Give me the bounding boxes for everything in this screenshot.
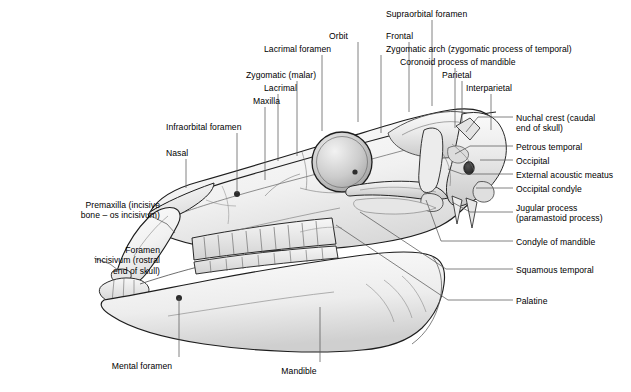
label-condyle-of-mandible: Condyle of mandible <box>516 237 595 247</box>
label-mandible: Mandible <box>259 366 339 376</box>
label-nasal: Nasal <box>166 148 188 158</box>
label-parietal: Parietal <box>442 70 472 80</box>
label-occipital-condyle: Occipital condyle <box>516 184 582 194</box>
label-zygomatic-malar: Zygomatic (malar) <box>246 70 316 80</box>
anatomical-figure: Supraorbital foramenOrbitFrontalZygomati… <box>0 0 631 392</box>
paramastoid-process <box>466 198 477 228</box>
label-lacrimal: Lacrimal <box>264 83 297 93</box>
skull-body <box>99 109 506 352</box>
label-foramen-incisivum: Foramen incisivum (rostral end of skull) <box>30 245 160 276</box>
occipital-condyle <box>473 181 494 202</box>
label-maxilla: Maxilla <box>253 96 280 106</box>
label-interparietal: Interparietal <box>466 83 512 93</box>
label-supraorbital-foramen: Supraorbital foramen <box>386 9 467 19</box>
label-mental-foramen: Mental foramen <box>102 361 182 371</box>
label-jugular-process: Jugular process (paramastoid process) <box>516 203 603 224</box>
label-infraorbital-foramen: Infraorbital foramen <box>166 122 242 132</box>
skull-illustration <box>0 0 631 392</box>
label-frontal: Frontal <box>386 31 413 41</box>
label-nuchal-crest: Nuchal crest (caudal end of skull) <box>516 113 595 134</box>
external-acoustic-meatus <box>464 162 474 175</box>
lacrimal-foramen <box>352 169 357 174</box>
label-zygomatic-arch: Zygomatic arch (zygomatic process of tem… <box>386 44 572 54</box>
label-lacrimal-foramen: Lacrimal foramen <box>264 44 331 54</box>
label-petrous-temporal: Petrous temporal <box>516 142 582 152</box>
label-premaxilla: Premaxilla (incisive bone – os incisivum… <box>30 200 160 221</box>
label-palatine: Palatine <box>516 296 547 306</box>
label-coronoid-process: Coronoid process of mandible <box>400 57 516 67</box>
label-orbit: Orbit <box>329 31 348 41</box>
orbit <box>312 132 372 192</box>
label-squamous-temporal: Squamous temporal <box>516 265 594 275</box>
label-occipital: Occipital <box>516 156 549 166</box>
label-external-acoustic-meatus: External acoustic meatus <box>516 170 613 180</box>
